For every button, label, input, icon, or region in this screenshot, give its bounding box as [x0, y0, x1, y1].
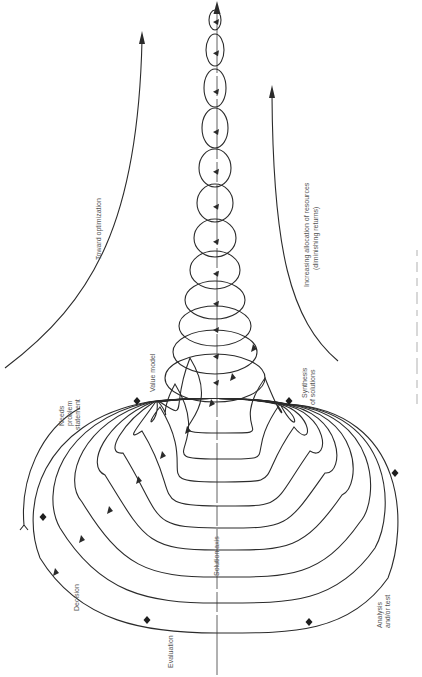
spiral-loop: [204, 69, 226, 107]
spiral-direction-arrow-icon: [213, 380, 219, 386]
upper-spiral-loops: [165, 10, 265, 402]
spiral-direction-arrow-icon: [213, 129, 219, 135]
spiral-direction-arrow-icon: [213, 271, 219, 277]
stage-marker-evaluation: [144, 616, 151, 624]
stage-marker-analysis-test: [306, 618, 313, 626]
spiral-loop: [206, 34, 224, 66]
spiral-direction-arrow-icon: [213, 239, 219, 245]
spiral-direction-arrow-icon: [213, 169, 219, 175]
spiral-direction-arrow-icon: [160, 451, 166, 459]
stage-marker-analysis: [392, 469, 399, 477]
stage-marker-decision: [40, 513, 47, 521]
spiral-direction-arrow-icon: [213, 204, 219, 210]
decision-label: Decision: [73, 584, 80, 611]
spiral-loop: [115, 398, 337, 528]
spiral-direction-arrow-icon: [107, 506, 113, 514]
needs-label-line3: statement: [74, 399, 81, 430]
spiral-loop: [202, 108, 228, 148]
spiral-direction-arrow-icon: [213, 19, 219, 25]
resources-label-line2: (diminishing returns): [312, 207, 320, 270]
evaluation-label: Evaluation: [167, 635, 174, 668]
synthesis-label-line1: Synthesis: [301, 367, 309, 398]
toward-optimization-arrow: [5, 40, 142, 368]
analysis-label-line1: Analysis: [376, 601, 384, 628]
synthesis-label-line2: of solutions: [309, 369, 316, 405]
solution-axis-label: Solution axis: [213, 536, 220, 576]
resources-arrowhead-icon: [269, 85, 275, 98]
toward-optimization-label: Toward optimization: [95, 198, 103, 260]
needs-label-line1: Needs: [58, 405, 65, 426]
spiral-direction-arrow-icon: [213, 50, 219, 56]
spiral-loop: [165, 354, 265, 402]
stage-markers: [40, 397, 399, 626]
spiral-direction-arrow-icon: [53, 568, 59, 576]
spiral-direction-arrow-icon: [213, 89, 219, 95]
spiral-loop: [159, 384, 295, 459]
spiral-loop: [160, 358, 282, 433]
resources-label-line1: Increasing allocation of resources: [303, 182, 311, 287]
figure-caption-faint: [416, 250, 418, 404]
spiral-loop: [185, 281, 245, 319]
analysis-label-line2: and/or test: [384, 595, 391, 628]
needs-label-line2: problem: [66, 401, 74, 426]
spiral-loop: [199, 149, 231, 187]
design-spiral-diagram: Toward optimization Increasing allocatio…: [0, 0, 422, 677]
spiral-loop: [33, 398, 398, 633]
solution-axis-arrowhead-icon: [214, 1, 221, 14]
spiral-direction-arrow-icon: [213, 327, 219, 333]
spiral-loop: [197, 184, 233, 222]
spiral-direction-arrow-icon: [79, 535, 85, 543]
lower-spiral-loops: [33, 344, 398, 633]
toward-optimization-arrowhead-icon: [139, 31, 145, 44]
spiral-direction-arrow-icon: [209, 399, 215, 407]
spiral-loop: [179, 306, 251, 346]
value-model-label: Value model: [149, 353, 156, 392]
spiral-loop: [173, 330, 257, 374]
spiral-direction-arrow-icon: [230, 373, 236, 381]
